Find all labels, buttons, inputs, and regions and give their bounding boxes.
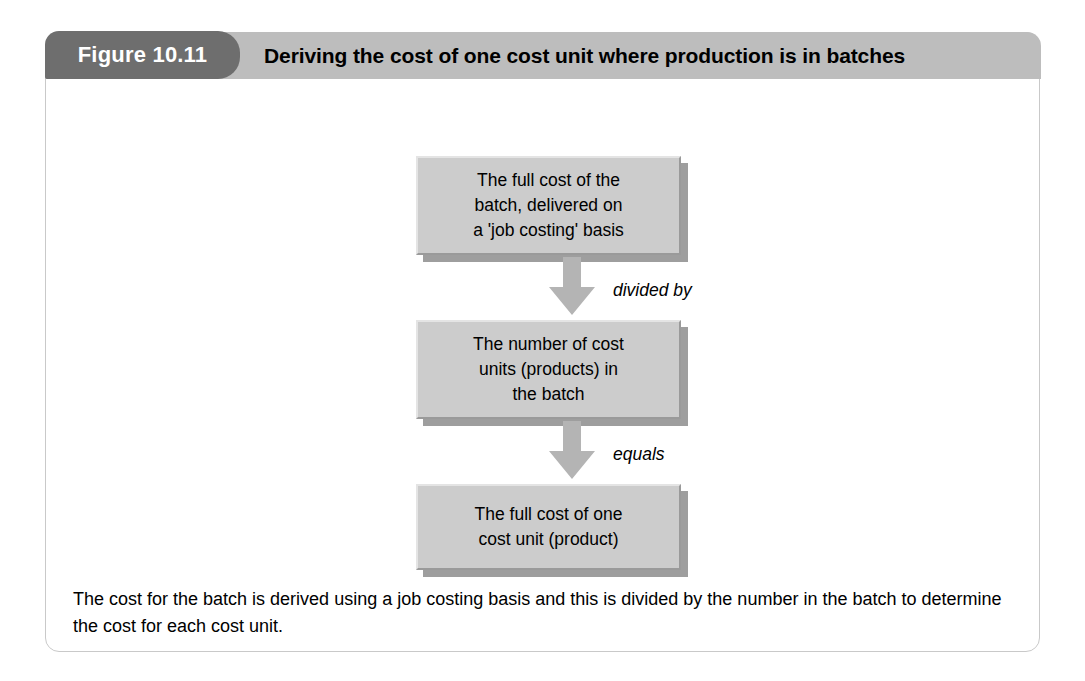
flow-edge-label-divided-by: divided by <box>613 280 692 301</box>
down-arrow-icon-divided-by <box>549 257 595 315</box>
figure-number-badge: Figure 10.11 <box>45 31 240 79</box>
figure-number-label: Figure 10.11 <box>78 42 208 68</box>
flow-diagram: The full cost of the batch, delivered on… <box>46 80 1041 580</box>
figure-caption: The cost for the batch is derived using … <box>73 586 1013 640</box>
flow-edge-label-equals: equals <box>613 444 665 465</box>
flow-node-full-cost-of-one-unit: The full cost of one cost unit (product) <box>416 484 681 570</box>
flow-node-label: The number of cost units (products) in t… <box>459 332 638 407</box>
figure-title: Deriving the cost of one cost unit where… <box>264 32 905 79</box>
flow-node-label: The full cost of the batch, delivered on… <box>459 168 638 243</box>
down-arrow-icon-equals <box>549 421 595 479</box>
flow-node-number-of-cost-units: The number of cost units (products) in t… <box>416 320 681 419</box>
figure-header-bar: Figure 10.11 Deriving the cost of one co… <box>46 32 1041 79</box>
figure-card: Figure 10.11 Deriving the cost of one co… <box>45 32 1040 652</box>
flow-node-label: The full cost of one cost unit (product) <box>461 502 637 552</box>
flow-node-full-cost-of-batch: The full cost of the batch, delivered on… <box>416 156 681 255</box>
